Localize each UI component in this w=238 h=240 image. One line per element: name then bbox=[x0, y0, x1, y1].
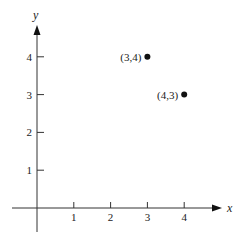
data-points: (3,4)(4,3) bbox=[120, 51, 187, 102]
scatter-chart: x y 1234 1234 (3,4)(4,3) bbox=[0, 0, 238, 240]
y-tick-label: 2 bbox=[27, 126, 33, 138]
x-axis-arrow-icon bbox=[212, 205, 222, 212]
y-tick-label: 1 bbox=[27, 164, 33, 176]
x-ticks: 1234 bbox=[71, 202, 187, 223]
x-tick-label: 4 bbox=[181, 211, 187, 223]
x-tick-label: 3 bbox=[145, 211, 151, 223]
point-label: (3,4) bbox=[120, 51, 141, 64]
y-axis-label: y bbox=[32, 8, 39, 22]
point-label: (4,3) bbox=[157, 89, 178, 102]
x-axis-label: x bbox=[226, 201, 233, 215]
y-tick-label: 4 bbox=[27, 51, 33, 63]
x-tick-label: 1 bbox=[71, 211, 77, 223]
data-point-icon bbox=[144, 54, 150, 60]
y-tick-label: 3 bbox=[27, 89, 33, 101]
data-point-icon bbox=[181, 92, 187, 98]
y-ticks: 1234 bbox=[27, 51, 45, 176]
axes: x y bbox=[12, 8, 233, 232]
x-tick-label: 2 bbox=[108, 211, 114, 223]
y-axis-arrow-icon bbox=[34, 25, 41, 35]
